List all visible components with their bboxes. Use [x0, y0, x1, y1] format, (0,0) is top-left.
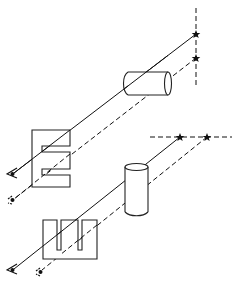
upper-setup — [7, 8, 200, 204]
vertical-cylinder — [125, 164, 148, 216]
upper-eye-solid — [7, 168, 17, 178]
lower-eye-dashed — [36, 268, 43, 276]
upper-eye-dashed — [8, 196, 15, 204]
lower-slotted-block — [43, 219, 97, 259]
diagram-canvas — [0, 0, 240, 286]
lower-eye-solid — [7, 264, 17, 274]
horizontal-cylinder — [124, 55, 172, 95]
optics-diagram — [0, 0, 240, 286]
upper-slotted-block — [14, 130, 70, 199]
